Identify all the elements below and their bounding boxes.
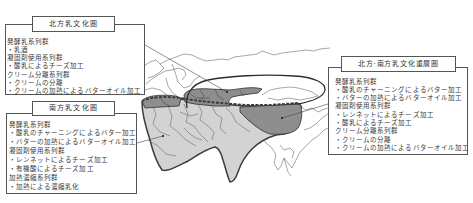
group-item: ・レンネットによるチーズ加工 bbox=[9, 156, 136, 165]
group-heading: 発酵乳系列群 bbox=[7, 38, 144, 46]
dairy-culture-map-figure: 発酵乳系列群 ・乳酒 凝固剤使用系列群 ・酸乳によるチーズ加工 クリーム分離系列… bbox=[0, 0, 473, 203]
group-heading: クリーム分離系列群 bbox=[7, 71, 144, 79]
arctic-coastline bbox=[160, 48, 330, 64]
mongolia-border bbox=[262, 87, 318, 100]
scandinavia-coastline bbox=[144, 60, 164, 78]
baltic-coastline bbox=[146, 68, 186, 84]
group-item: ・酸乳によるチーズ加工 bbox=[7, 62, 144, 70]
east-asia-coastline bbox=[300, 106, 328, 130]
group-heading: 凝固剤使用系列群 bbox=[9, 147, 136, 156]
group-heading: 発酵乳系列群 bbox=[335, 78, 467, 86]
group-heading: 加熱濃縮系列群 bbox=[9, 174, 136, 183]
north-culture-title: 北方乳文化圏 bbox=[32, 16, 115, 32]
group-item: ・有機酸によるチーズ加工 bbox=[9, 165, 136, 174]
group-heading: 凝固剤使用系列群 bbox=[335, 102, 467, 110]
group-item: ・酸乳のチャーニングによるバター加工 bbox=[335, 86, 467, 94]
group-item: ・加熱による濃縮乳化 bbox=[9, 183, 136, 192]
overlap-culture-title: 北方·南方乳文化重層圏 bbox=[341, 56, 456, 72]
group-item: ・クリームの分離 bbox=[335, 136, 467, 144]
south-callout-anchor-dot bbox=[162, 135, 164, 137]
south-culture-title: 南方乳文化圏 bbox=[32, 101, 115, 116]
north-callout-anchor-dot bbox=[226, 91, 228, 93]
group-item: ・バターの加熱によるバターオイル加工 bbox=[9, 138, 136, 147]
overlap-culture-callout: 発酵乳系列群 ・酸乳のチャーニングによるバター加工 ・バターの加熱によるバターオ… bbox=[328, 67, 468, 155]
group-item: ・クリームの加熱によるバターオイル加工 bbox=[7, 87, 144, 95]
group-heading: クリーム分離系列群 bbox=[335, 127, 467, 135]
group-item: ・乳酒 bbox=[7, 46, 144, 54]
malay-peninsula-coastline bbox=[280, 145, 294, 176]
group-item: ・レンネットによるチーズ加工 bbox=[335, 111, 467, 119]
south-culture-callout: 発酵乳系列群 ・酸乳のチャーニングによるバター加工 ・バターの加熱によるバターオ… bbox=[6, 113, 137, 194]
north-callout-leader-line bbox=[145, 45, 227, 92]
north-culture-callout: 発酵乳系列群 ・乳酒 凝固剤使用系列群 ・酸乳によるチーズ加工 クリーム分離系列… bbox=[5, 24, 145, 95]
overlap-callout-anchor-dot bbox=[281, 117, 283, 119]
group-item: ・クリームの加熱によるバターオイル加工 bbox=[335, 144, 467, 152]
group-item: ・酸乳のチャーニングによるバター加工 bbox=[9, 129, 136, 138]
